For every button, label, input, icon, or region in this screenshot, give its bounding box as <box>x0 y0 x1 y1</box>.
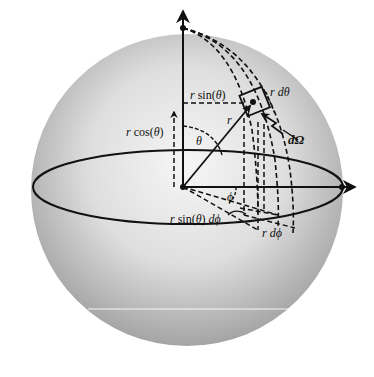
label-theta: θ <box>196 134 202 148</box>
label-r: r <box>227 113 232 127</box>
label-r-sin-theta: r sin(θ) <box>190 88 226 102</box>
label-d-omega: dΩ <box>288 132 305 147</box>
label-r-dphi: r dϕ <box>262 226 282 240</box>
diagram-canvas: r sin(θ) r cos(θ) r θ ϕ r dθ dΩ r sin(θ)… <box>0 0 374 377</box>
surface-element-center <box>250 99 256 105</box>
north-pole-point <box>180 25 186 31</box>
label-r-sin-theta-dphi: r sin(θ) dϕ <box>170 212 221 226</box>
x-axis-point <box>339 184 345 190</box>
label-phi: ϕ <box>227 190 233 204</box>
label-r-dtheta: r dθ <box>270 85 290 99</box>
label-r-cos-theta: r cos(θ) <box>126 125 164 139</box>
